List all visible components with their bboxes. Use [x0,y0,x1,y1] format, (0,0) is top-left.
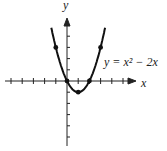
x-axis-label: x [141,76,146,91]
equation-label: y = x² − 2x [104,55,158,70]
y-axis-label: y [63,0,68,13]
data-points [53,45,103,95]
data-point [76,90,81,95]
data-point [65,79,70,84]
data-point [98,45,103,50]
data-point [87,79,92,84]
data-point [53,45,58,50]
